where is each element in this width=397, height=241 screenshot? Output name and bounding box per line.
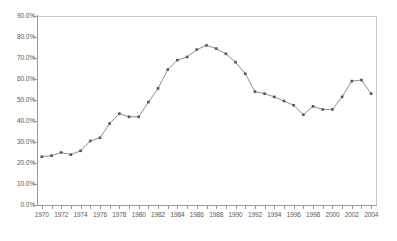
y-tick	[33, 100, 37, 101]
y-tick	[33, 205, 37, 206]
x-tick	[294, 206, 295, 209]
x-tick	[245, 206, 246, 209]
x-tick	[332, 206, 333, 209]
x-tick	[90, 206, 91, 209]
x-tick	[148, 206, 149, 209]
y-tick	[33, 79, 37, 80]
x-tick	[236, 206, 237, 209]
x-tick	[119, 206, 120, 209]
x-tick	[274, 206, 275, 209]
x-tick	[207, 206, 208, 209]
x-tick	[168, 206, 169, 209]
x-tick	[177, 206, 178, 209]
x-tick	[52, 206, 53, 209]
x-tick	[226, 206, 227, 209]
y-axis-line	[37, 15, 38, 206]
y-tick	[33, 58, 37, 59]
y-tick-label: 20.0%	[1, 159, 35, 166]
x-tick-label: 2004	[358, 211, 384, 219]
y-tick-label: 50.0%	[1, 96, 35, 103]
x-tick	[361, 206, 362, 209]
x-tick	[110, 206, 111, 209]
y-tick-label: 10.0%	[1, 180, 35, 187]
x-tick	[197, 206, 198, 209]
x-tick	[371, 206, 372, 209]
x-tick	[284, 206, 285, 209]
x-tick	[42, 206, 43, 209]
y-tick	[33, 163, 37, 164]
x-tick	[352, 206, 353, 209]
x-tick	[81, 206, 82, 209]
y-tick	[33, 142, 37, 143]
y-tick	[33, 16, 37, 17]
y-tick-label: 90.0%	[1, 12, 35, 19]
line-chart: 90.0%80.0%70.0%60.0%50.0%40.0%30.0%20.0%…	[0, 0, 397, 241]
y-tick	[33, 37, 37, 38]
plot-frame-top	[37, 16, 377, 17]
x-tick	[71, 206, 72, 209]
x-tick	[342, 206, 343, 209]
y-tick	[33, 184, 37, 185]
y-tick	[33, 121, 37, 122]
y-tick-label: 0.0%	[1, 201, 35, 208]
y-tick-label: 80.0%	[1, 33, 35, 40]
x-tick	[158, 206, 159, 209]
x-tick	[313, 206, 314, 209]
y-tick-label: 40.0%	[1, 117, 35, 124]
x-tick	[61, 206, 62, 209]
x-tick	[323, 206, 324, 209]
plot-frame-right	[376, 16, 377, 206]
x-tick	[139, 206, 140, 209]
x-tick	[255, 206, 256, 209]
x-tick	[100, 206, 101, 209]
y-tick-label: 60.0%	[1, 75, 35, 82]
y-tick-label: 70.0%	[1, 54, 35, 61]
x-tick	[129, 206, 130, 209]
x-tick	[303, 206, 304, 209]
y-axis-labels: 90.0%80.0%70.0%60.0%50.0%40.0%30.0%20.0%…	[0, 0, 35, 241]
x-tick	[216, 206, 217, 209]
x-tick	[187, 206, 188, 209]
y-tick-label: 30.0%	[1, 138, 35, 145]
plot-area	[37, 16, 376, 205]
x-tick	[265, 206, 266, 209]
